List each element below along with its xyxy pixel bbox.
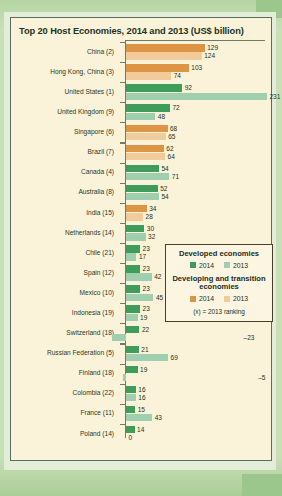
bar-group-2013: 16 <box>126 394 271 401</box>
axis-top-line <box>125 40 265 41</box>
bar-2014 <box>126 225 144 232</box>
bar-value-2014: 72 <box>170 104 180 111</box>
legend-swatch-developed-2013 <box>224 262 230 268</box>
row-bars: 10374 <box>126 63 271 81</box>
category-label: Mexico (10) <box>17 290 117 297</box>
bar-2014 <box>126 44 205 51</box>
legend-developing-title: Developing and transition economies <box>170 275 268 292</box>
bar-2014 <box>126 366 138 373</box>
legend-swatch-developing-2013 <box>224 296 230 302</box>
category-label: Singapore (6) <box>17 129 117 136</box>
row-bars: 92231 <box>126 83 271 101</box>
legend-label-developed-2013: 2013 <box>233 262 248 269</box>
row-bars: 7248 <box>126 103 271 121</box>
bar-group-2014: 62 <box>126 145 271 152</box>
bar-value-2013: 64 <box>165 153 175 160</box>
bar-value-2014: 14 <box>135 426 145 433</box>
bar-group-2014: 34 <box>126 205 271 212</box>
bar-value-2013: –5 <box>258 374 268 381</box>
category-label: India (15) <box>17 210 117 217</box>
legend-key-developed-2014: 2014 <box>190 262 214 269</box>
legend-key-developed-2013: 2013 <box>224 262 248 269</box>
chart-title: Top 20 Host Economies, 2014 and 2013 (US… <box>19 26 265 36</box>
row-bars: 5254 <box>126 184 271 202</box>
bar-group-2013: 124 <box>126 52 271 59</box>
legend-developed-title: Developed economies <box>170 250 268 259</box>
bar-value-2013: 43 <box>152 414 162 421</box>
row-bars: 1543 <box>126 405 271 423</box>
category-label: Spain (12) <box>17 270 117 277</box>
bar-value-2013: 231 <box>267 93 280 100</box>
bar-value-2014: 30 <box>144 225 154 232</box>
bar-value-2014: 62 <box>164 145 174 152</box>
category-label: Poland (14) <box>17 431 117 438</box>
category-label: Australia (8) <box>17 189 117 196</box>
bar-2014 <box>126 386 136 393</box>
bar-2013 <box>126 273 152 280</box>
bar-group-2013: 231 <box>126 93 271 100</box>
bar-value-2013: 28 <box>143 213 153 220</box>
bar-2014 <box>126 426 135 433</box>
bar-group-2014: 22 <box>126 326 271 333</box>
category-label: Chile (21) <box>17 250 117 257</box>
bar-group-2014: 103 <box>126 64 271 71</box>
legend-label-developing-2014: 2014 <box>199 295 214 302</box>
row-bars: 129124 <box>126 43 271 61</box>
bar-value-2013: 71 <box>169 173 179 180</box>
category-label: Russian Federation (5) <box>17 350 117 357</box>
bar-2013 <box>126 93 267 100</box>
bar-2013 <box>126 394 136 401</box>
bar-2013 <box>126 52 202 59</box>
category-label: Finland (18) <box>17 370 117 377</box>
decorative-band-bottom <box>242 474 282 496</box>
bar-2013 <box>126 113 155 120</box>
bar-value-2013: 42 <box>152 273 162 280</box>
legend-developed-keys: 2014 2013 <box>170 262 268 269</box>
bar-2014 <box>126 406 135 413</box>
chart-row: Colombia (22)1616 <box>17 384 265 404</box>
bar-value-2013: 124 <box>202 52 215 59</box>
bar-group-2013: 32 <box>126 233 271 240</box>
bar-group-2013: 28 <box>126 213 271 220</box>
bar-group-2013: 71 <box>126 173 271 180</box>
bar-2014 <box>126 84 182 91</box>
bar-value-2014: 16 <box>136 386 146 393</box>
bar-2014 <box>126 145 164 152</box>
bar-2013 <box>126 173 169 180</box>
row-bars: 6865 <box>126 123 271 141</box>
legend-swatch-developing-2014 <box>190 296 196 302</box>
category-label: China (2) <box>17 49 117 56</box>
bar-group-2014: 19 <box>126 366 271 373</box>
category-label: Canada (4) <box>17 169 117 176</box>
bar-value-2014: 19 <box>138 366 148 373</box>
bar-value-2014: 34 <box>147 205 157 212</box>
legend-swatch-developed-2014 <box>190 262 196 268</box>
chart-row: Finland (18)19–5 <box>17 364 265 384</box>
bar-value-2014: 21 <box>139 346 149 353</box>
row-bars: 140 <box>126 425 271 443</box>
bar-chart: China (2)129124Hong Kong, China (3)10374… <box>17 40 265 444</box>
category-label: United States (1) <box>17 89 117 96</box>
bar-2014 <box>126 64 189 71</box>
bar-value-2014: 52 <box>158 185 168 192</box>
bar-2013 <box>126 133 166 140</box>
bar-value-2013: 45 <box>153 294 163 301</box>
row-bars: 5471 <box>126 164 271 182</box>
bar-group-2013: –5 <box>126 374 271 381</box>
bar-value-2013: 32 <box>146 233 156 240</box>
chart-row: China (2)129124 <box>17 42 265 62</box>
bar-group-2014: 14 <box>126 426 271 433</box>
legend-label-developing-2013: 2013 <box>233 295 248 302</box>
bar-group-2014: 72 <box>126 104 271 111</box>
chart-legend: Developed economies 2014 2013 Developing… <box>165 244 273 322</box>
row-bars: 3032 <box>126 224 271 242</box>
bar-2013 <box>126 253 136 260</box>
legend-key-developing-2014: 2014 <box>190 295 214 302</box>
bar-group-2013: –23 <box>126 334 271 341</box>
legend-developing-keys: 2014 2013 <box>170 295 268 302</box>
chart-row: India (15)3428 <box>17 203 265 223</box>
bar-value-2014: 23 <box>140 285 150 292</box>
row-bars: 3428 <box>126 204 271 222</box>
bar-2014 <box>126 104 170 111</box>
chart-row: Switzerland (18)22–23 <box>17 323 265 343</box>
